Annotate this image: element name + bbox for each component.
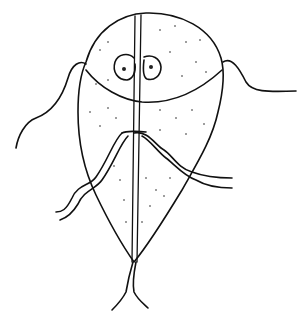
adhesive-disc-edge (86, 70, 222, 102)
caudal-flagellum-right (133, 262, 148, 308)
posterolateral-flagellum-left (56, 133, 122, 212)
flagellum-right (223, 61, 296, 92)
flagellum-left (16, 63, 86, 148)
axoneme-left (132, 16, 135, 262)
posterolateral-flagellum-right (134, 133, 232, 178)
nucleus-left (114, 55, 135, 80)
cytoplasm-stippling (89, 25, 207, 223)
posterolateral-flagellum-left-2 (60, 136, 128, 220)
axoneme-right (137, 15, 141, 262)
caudal-flagellum-left (112, 262, 133, 310)
nucleus-right (143, 56, 161, 79)
giardia-drawing (0, 0, 307, 320)
